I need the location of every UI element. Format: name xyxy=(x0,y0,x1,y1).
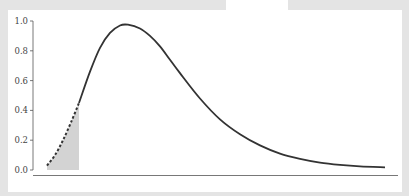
density-line xyxy=(79,24,385,167)
y-tick-label: 0.8 xyxy=(14,46,28,56)
y-tick-label: 0.6 xyxy=(14,76,28,86)
y-tick-label: 1.0 xyxy=(14,16,28,26)
y-tick-label: 0.0 xyxy=(14,165,28,175)
density-chart: 0.00.20.40.60.81.0 xyxy=(0,0,409,196)
y-tick-label: 0.2 xyxy=(14,135,28,145)
curve-lines xyxy=(47,24,385,167)
y-tick-label: 0.4 xyxy=(14,105,28,115)
